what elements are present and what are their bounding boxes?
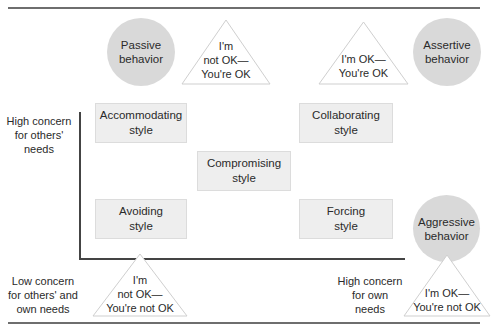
passive-line-1: Passive bbox=[119, 38, 163, 52]
label-line: High concern bbox=[0, 114, 78, 128]
assertive-line-2: behavior bbox=[423, 52, 470, 66]
passive-line-2: behavior bbox=[119, 52, 163, 66]
origin-label: Low concern for others' and own needs bbox=[0, 274, 86, 316]
box-line: style bbox=[119, 219, 163, 234]
label-line: for others' and bbox=[0, 288, 86, 302]
label-line: for own bbox=[330, 288, 410, 302]
label-line: for others' bbox=[0, 128, 78, 142]
y-axis-line bbox=[79, 112, 81, 259]
position-line: I'm bbox=[181, 39, 271, 53]
position-line: I'm bbox=[92, 273, 188, 287]
accommodating-style-box: Accommodating style bbox=[95, 103, 187, 143]
position-triangle-bottom-right: I'm OK— You're not OK bbox=[403, 254, 491, 317]
passive-behavior-circle: Passive behavior bbox=[107, 18, 175, 86]
position-line: You're OK bbox=[181, 67, 271, 81]
box-line: Compromising bbox=[207, 156, 281, 171]
label-line: High concern bbox=[330, 274, 410, 288]
position-line: not OK— bbox=[92, 287, 188, 301]
position-triangle-top-right: I'm OK— You're OK bbox=[318, 21, 409, 85]
box-line: style bbox=[327, 219, 365, 234]
avoiding-style-box: Avoiding style bbox=[95, 199, 187, 239]
position-line: not OK— bbox=[181, 53, 271, 67]
label-line: own needs bbox=[0, 302, 86, 316]
aggressive-line-2: behavior bbox=[418, 229, 475, 243]
position-line: You're not OK bbox=[92, 301, 188, 315]
bottom-rule bbox=[8, 322, 480, 324]
box-line: Collaborating bbox=[312, 108, 380, 123]
assertive-line-1: Assertive bbox=[423, 38, 470, 52]
y-axis-high-label: High concern for others' needs bbox=[0, 114, 78, 156]
position-line: You're OK bbox=[318, 66, 409, 80]
collaborating-style-box: Collaborating style bbox=[299, 103, 393, 143]
position-triangle-top-left: I'm not OK— You're OK bbox=[181, 19, 271, 85]
position-line: I'm OK— bbox=[318, 52, 409, 66]
box-line: Avoiding bbox=[119, 204, 163, 219]
x-axis-high-label: High concern for own needs bbox=[330, 274, 410, 316]
position-triangle-bottom-left: I'm not OK— You're not OK bbox=[92, 253, 188, 317]
assertive-behavior-circle: Assertive behavior bbox=[413, 18, 481, 86]
label-line: needs bbox=[0, 142, 78, 156]
top-rule bbox=[8, 7, 480, 9]
position-line: I'm OK— bbox=[403, 286, 491, 300]
box-line: Forcing bbox=[327, 204, 365, 219]
compromising-style-box: Compromising style bbox=[197, 151, 291, 191]
forcing-style-box: Forcing style bbox=[299, 199, 393, 239]
box-line: style bbox=[312, 123, 380, 138]
box-line: style bbox=[100, 123, 182, 138]
aggressive-line-1: Aggressive bbox=[418, 215, 475, 229]
position-line: You're not OK bbox=[403, 300, 491, 314]
box-line: style bbox=[207, 171, 281, 186]
label-line: needs bbox=[330, 302, 410, 316]
aggressive-behavior-circle: Aggressive behavior bbox=[413, 195, 480, 262]
box-line: Accommodating bbox=[100, 108, 182, 123]
label-line: Low concern bbox=[0, 274, 86, 288]
